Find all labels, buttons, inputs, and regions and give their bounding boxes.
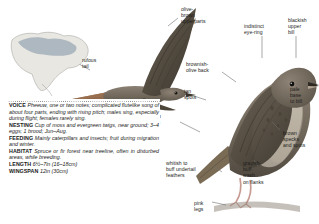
measurement-label-length: LENGTH	[9, 161, 31, 167]
annotation-olive-brown-upperparts: olive- brown upperparts	[181, 6, 206, 25]
annotation-rufous-tail: rufous tail	[82, 57, 96, 69]
measurement-row-length: LENGTH 6½–7in (16–18cm)	[8, 161, 160, 168]
annotation-brown-specks-and-spots: brown specks and spots	[283, 130, 305, 149]
measurement-label-wingspan: WINGSPAN	[9, 168, 38, 174]
info-label-habitat: HABITAT	[9, 148, 32, 154]
info-row-feeding: FEEDING Mainly caterpillars and insects;…	[8, 135, 160, 148]
annotation-pale-base-to-bill: pale base to bill	[290, 86, 302, 105]
info-row-nesting: NESTING Cup of moss and evergreen twigs,…	[8, 122, 160, 135]
annotation-blackish-upper-bill: blackish upper bill	[288, 17, 307, 36]
species-info-panel: VOICE Pheeuw, one or two notes; complica…	[8, 99, 160, 174]
info-row-voice: VOICE Pheeuw, one or two notes; complica…	[8, 102, 160, 122]
measurement-value-length: 6½–7in (16–18cm)	[33, 161, 78, 167]
annotation-whitish-to-buff-undertail-feathers: whitish to buff undertail feathers	[166, 160, 196, 179]
info-label-nesting: NESTING	[9, 122, 33, 128]
info-label-feeding: FEEDING	[9, 135, 33, 141]
info-value-habitat: Spruce or fir forest near treeline, ofte…	[9, 148, 159, 161]
annotation-indistinct-eye-ring: indistinct eye-ring	[244, 23, 264, 35]
measurement-row-wingspan: WINGSPAN 12in (30cm)	[8, 168, 160, 175]
info-label-voice: VOICE	[9, 102, 26, 108]
annotation-pink-legs: pink legs	[194, 200, 203, 212]
annotation-tan-spots: tan spots	[184, 88, 196, 100]
measurement-value-wingspan: 12in (30cm)	[40, 168, 68, 174]
info-row-habitat: HABITAT Spruce or fir forest near treeli…	[8, 148, 160, 161]
annotation-brownish-olive-back: brownish- olive back	[186, 61, 209, 73]
info-value-voice: Pheeuw, one or two notes; complicated fl…	[9, 102, 159, 121]
annotation-grayish-buff-wash-on-flanks: grayish- buff wash on flanks	[243, 160, 264, 185]
